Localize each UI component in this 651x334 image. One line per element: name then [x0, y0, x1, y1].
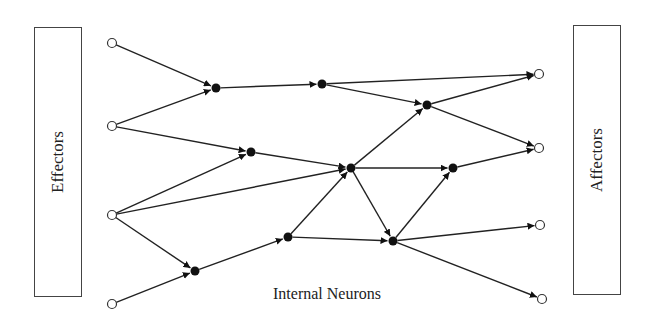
edge-I2-N1: [116, 90, 211, 125]
internal-neuron-node: [191, 267, 200, 276]
internal-neuron-node: [423, 101, 432, 110]
edge-I3-N4: [116, 154, 246, 213]
edge-I1-N1: [116, 45, 211, 86]
edge-I3-N9: [116, 218, 191, 268]
effector-node: [108, 122, 117, 131]
internal-neuron-node: [389, 237, 398, 246]
affectors-label: Affectors: [587, 128, 607, 192]
edge-N7-N8: [292, 237, 387, 241]
internal-neuron-node: [284, 233, 293, 242]
effectors-label: Effectors: [48, 131, 68, 193]
affectors-box: Affectors: [573, 25, 621, 295]
effector-node: [108, 39, 117, 48]
edge-N6-O2: [457, 149, 533, 167]
internal-neuron-node: [449, 164, 458, 173]
edge-N3-O2: [431, 107, 534, 146]
edge-N9-N7: [199, 239, 283, 270]
edge-N7-N5: [291, 172, 347, 234]
edge-N8-O4: [397, 243, 537, 297]
edge-N2-N3: [326, 85, 421, 104]
affector-node: [535, 144, 544, 153]
internal-neuron-node: [347, 164, 356, 173]
edge-N5-N8: [353, 172, 390, 236]
edge-N3-O1: [431, 75, 533, 103]
edge-N8-N6: [396, 172, 450, 237]
edge-N5-N3: [354, 109, 422, 166]
edge-N2-O1: [326, 74, 533, 84]
effector-node: [108, 300, 117, 309]
network-graph: [0, 0, 651, 334]
edge-I2-N4: [116, 127, 245, 151]
node-group: [108, 39, 547, 309]
edge-I3-N5: [116, 169, 345, 214]
effectors-box: Effectors: [34, 27, 82, 297]
edge-N4-N5: [255, 153, 345, 167]
edge-N1-N2: [220, 84, 316, 88]
effector-node: [108, 211, 117, 220]
edge-I4-N9: [116, 273, 190, 302]
affector-node: [535, 70, 544, 79]
affector-node: [538, 295, 547, 304]
internal-neuron-node: [212, 84, 221, 93]
internal-neuron-node: [318, 80, 327, 89]
internal-neuron-node: [247, 148, 256, 157]
edge-N8-O3: [397, 226, 534, 241]
affector-node: [536, 221, 545, 230]
internal-neurons-caption: Internal Neurons: [273, 285, 381, 303]
